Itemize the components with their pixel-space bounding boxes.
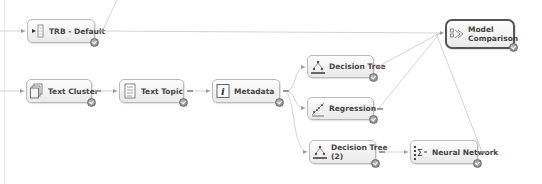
output-port[interactable] [98, 30, 104, 32]
node-trb-default[interactable]: TRB - Default [27, 19, 95, 43]
decision-tree-icon [311, 59, 325, 75]
run-status-checkmark-icon [275, 98, 284, 107]
decision-tree-icon [313, 144, 327, 160]
svg-text:Σ: Σ [417, 148, 423, 158]
node-label: Regression [329, 104, 376, 113]
node-model-comparison[interactable]: ModelComparison [445, 19, 515, 49]
text-cluster-icon [30, 83, 44, 99]
output-port[interactable] [95, 90, 101, 92]
node-text-topic[interactable]: Text Topic [119, 79, 184, 103]
run-status-checkmark-icon [369, 73, 378, 82]
node-neural-network[interactable]: Σ Neural Network [410, 140, 478, 164]
data-source-icon [31, 23, 45, 39]
node-label-line2: Comparison [468, 34, 518, 43]
output-port[interactable] [379, 151, 385, 153]
node-label-line2: (2) [331, 152, 343, 161]
node-decision-tree[interactable]: Decision Tree [307, 55, 374, 78]
metadata-icon: i [216, 83, 230, 99]
svg-text:i: i [221, 86, 225, 97]
node-label: Text Cluster [48, 87, 99, 96]
run-status-checkmark-icon [371, 159, 380, 168]
run-status-checkmark-icon [90, 38, 99, 47]
node-text-cluster[interactable]: Text Cluster [26, 79, 92, 103]
output-port[interactable] [377, 66, 383, 68]
output-port[interactable] [187, 90, 193, 92]
neural-network-icon: Σ [414, 144, 428, 160]
run-status-checkmark-icon [87, 98, 96, 107]
node-decision-tree-2[interactable]: Decision Tree(2) [309, 140, 376, 164]
model-comparison-icon [450, 26, 464, 42]
run-status-checkmark-icon [369, 115, 378, 124]
node-label: ModelComparison [468, 25, 518, 43]
run-status-checkmark-icon [179, 98, 188, 107]
text-topic-icon [123, 83, 137, 99]
node-label: Neural Network [432, 148, 498, 157]
node-label-line1: Model [468, 25, 494, 34]
process-flow-canvas[interactable]: TRB - Default Text Cluster Text Topic i … [0, 0, 542, 184]
output-port[interactable] [377, 108, 383, 110]
output-port[interactable] [283, 90, 289, 92]
node-regression[interactable]: Regression [307, 97, 374, 120]
node-metadata[interactable]: i Metadata [212, 79, 280, 103]
node-label: TRB - Default [49, 27, 105, 36]
output-port[interactable] [481, 151, 487, 153]
run-status-checkmark-icon [509, 43, 518, 52]
run-status-checkmark-icon [473, 159, 482, 168]
node-label: Metadata [234, 87, 274, 96]
regression-icon [311, 101, 325, 117]
node-label: Text Topic [141, 87, 183, 96]
